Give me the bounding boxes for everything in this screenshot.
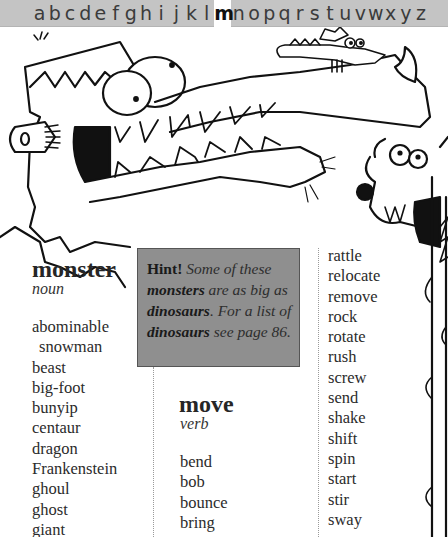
alphabet-letter-a[interactable]: a <box>32 0 47 27</box>
hint-emphasis: dinosaurs <box>147 323 210 340</box>
synonym-item: shift <box>328 429 380 449</box>
alphabet-letter-o[interactable]: o <box>246 0 261 27</box>
alphabet-letter-n[interactable]: n <box>231 0 246 27</box>
alphabet-letter-f[interactable]: f <box>108 0 123 27</box>
synonym-item: ghost <box>32 500 117 520</box>
synonym-item: bunyip <box>32 398 117 418</box>
hint-page-reference: see page 86. <box>210 323 291 340</box>
synonym-item: big-foot <box>32 378 117 398</box>
synonym-item: send <box>328 388 380 408</box>
synonym-list-move: bendbobbouncebring <box>180 452 228 533</box>
alphabet-letter-e[interactable]: e <box>93 0 108 27</box>
synonym-item: rush <box>328 347 380 367</box>
alphabet-letter-l[interactable]: l <box>199 0 214 27</box>
alphabet-letter-j[interactable]: j <box>169 0 184 27</box>
synonym-list-monster: abominablesnowmanbeastbig-footbunyipcent… <box>32 317 117 537</box>
small-dragon-drawing <box>277 27 385 72</box>
alphabet-letter-d[interactable]: d <box>78 0 93 27</box>
hint-box: Hint! Some of these monsters are as big … <box>137 248 300 367</box>
alphabet-nav: abcdefghijklmnopqrstuvwxyz <box>0 0 448 27</box>
hint-text: are as big as <box>205 281 288 298</box>
alphabet-letter-y[interactable]: y <box>398 0 413 27</box>
synonym-item: sway <box>328 510 380 530</box>
synonym-item: relocate <box>328 266 380 286</box>
alphabet-letter-w[interactable]: w <box>368 0 383 27</box>
alphabet-letter-r[interactable]: r <box>292 0 307 27</box>
synonym-item: dragon <box>32 439 117 459</box>
synonym-item: rotate <box>328 327 380 347</box>
synonym-list-move-continued: rattlerelocateremoverockrotaterushscrews… <box>328 246 380 530</box>
entry-headword-monster: monster <box>32 257 116 281</box>
synonym-item: rattle <box>328 246 380 266</box>
alphabet-letter-t[interactable]: t <box>322 0 337 27</box>
alphabet-letter-u[interactable]: u <box>338 0 353 27</box>
synonym-item: centaur <box>32 418 117 438</box>
entry-part-of-speech: noun <box>32 280 64 298</box>
synonym-item: start <box>328 469 380 489</box>
hint-emphasis: dinosaurs <box>147 302 210 319</box>
alphabet-letter-g[interactable]: g <box>123 0 138 27</box>
synonym-item: shake <box>328 408 380 428</box>
synonym-item: screw <box>328 368 380 388</box>
alphabet-letter-x[interactable]: x <box>383 0 398 27</box>
alphabet-letter-z[interactable]: z <box>414 0 429 27</box>
synonym-item: giant <box>32 520 117 537</box>
hint-emphasis: monsters <box>147 281 205 298</box>
synonym-item: abominable <box>32 317 117 337</box>
alphabet-letter-v[interactable]: v <box>353 0 368 27</box>
alphabet-letter-h[interactable]: h <box>138 0 153 27</box>
synonym-item: remove <box>328 287 380 307</box>
alphabet-letter-q[interactable]: q <box>277 0 292 27</box>
synonym-item: Frankenstein <box>32 459 117 479</box>
hint-text: . For a list of <box>210 302 291 319</box>
alphabet-letter-k[interactable]: k <box>184 0 199 27</box>
alphabet-letter-b[interactable]: b <box>47 0 62 27</box>
column-divider <box>153 367 154 537</box>
synonym-item: stir <box>328 490 380 510</box>
entry-headword-move: move <box>179 392 234 416</box>
synonym-item: bob <box>180 472 228 492</box>
synonym-item: bring <box>180 513 228 533</box>
synonym-item: beast <box>32 358 117 378</box>
alphabet-letter-i[interactable]: i <box>154 0 169 27</box>
column-divider <box>318 248 319 537</box>
synonym-item: spin <box>328 449 380 469</box>
hint-text: Some of these <box>182 260 271 277</box>
synonym-item: snowman <box>32 337 117 357</box>
synonym-item: ghoul <box>32 479 117 499</box>
alphabet-letter-c[interactable]: c <box>62 0 77 27</box>
alphabet-letter-p[interactable]: p <box>262 0 277 27</box>
alphabet-letter-m[interactable]: m <box>214 0 231 27</box>
synonym-item: bounce <box>180 493 228 513</box>
hint-label: Hint! <box>147 260 182 277</box>
synonym-item: rock <box>328 307 380 327</box>
synonym-item: bend <box>180 452 228 472</box>
entry-part-of-speech: verb <box>180 415 208 433</box>
alphabet-letter-s[interactable]: s <box>307 0 322 27</box>
